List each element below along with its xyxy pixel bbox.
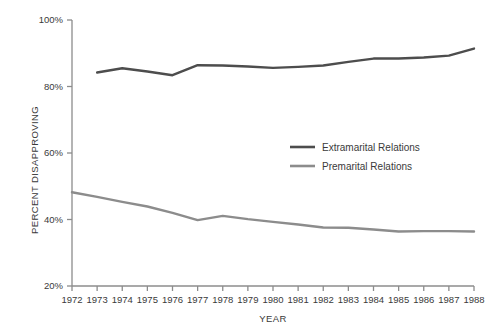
y-axis-tick-label: 60% xyxy=(44,147,64,158)
series-line xyxy=(97,49,474,76)
y-axis-tick-label: 80% xyxy=(44,81,64,92)
x-axis-tick-label: 1983 xyxy=(338,294,359,305)
y-axis-tick-label: 40% xyxy=(44,214,64,225)
y-axis-tick-label: 100% xyxy=(39,14,64,25)
x-axis-tick-label: 1977 xyxy=(187,294,208,305)
x-axis-tick-label: 1980 xyxy=(262,294,283,305)
y-axis-ticks xyxy=(67,20,72,286)
chart-legend: Extramarital RelationsPremarital Relatio… xyxy=(290,142,420,172)
x-axis-title: YEAR xyxy=(259,313,286,324)
x-axis-tick-label: 1976 xyxy=(162,294,183,305)
line-chart: 100%80%60%40%20% 19721973197419751976197… xyxy=(0,0,502,332)
y-axis-tick-labels: 100%80%60%40%20% xyxy=(39,14,64,291)
x-axis-tick-label: 1985 xyxy=(388,294,409,305)
x-axis-tick-label: 1988 xyxy=(463,294,484,305)
series-line xyxy=(72,192,474,231)
x-axis-tick-label: 1978 xyxy=(212,294,233,305)
y-axis-title: PERCENT DISAPPROVING xyxy=(29,106,40,234)
x-axis-tick-label: 1984 xyxy=(363,294,384,305)
y-axis-tick-label: 20% xyxy=(44,280,64,291)
x-axis-tick-label: 1987 xyxy=(438,294,459,305)
x-axis-tick-label: 1981 xyxy=(288,294,309,305)
x-axis-tick-label: 1973 xyxy=(87,294,108,305)
x-axis-tick-label: 1979 xyxy=(237,294,258,305)
x-axis-tick-label: 1982 xyxy=(313,294,334,305)
series-lines xyxy=(72,49,474,232)
legend-label: Extramarital Relations xyxy=(322,142,420,153)
x-axis-tick-label: 1986 xyxy=(413,294,434,305)
chart-container: 100%80%60%40%20% 19721973197419751976197… xyxy=(0,0,502,332)
x-axis-tick-labels: 1972197319741975197619771978197919801981… xyxy=(61,294,484,305)
legend-label: Premarital Relations xyxy=(322,161,412,172)
x-axis-ticks xyxy=(72,286,474,291)
x-axis-tick-label: 1974 xyxy=(112,294,133,305)
x-axis-tick-label: 1972 xyxy=(61,294,82,305)
x-axis-tick-label: 1975 xyxy=(137,294,158,305)
